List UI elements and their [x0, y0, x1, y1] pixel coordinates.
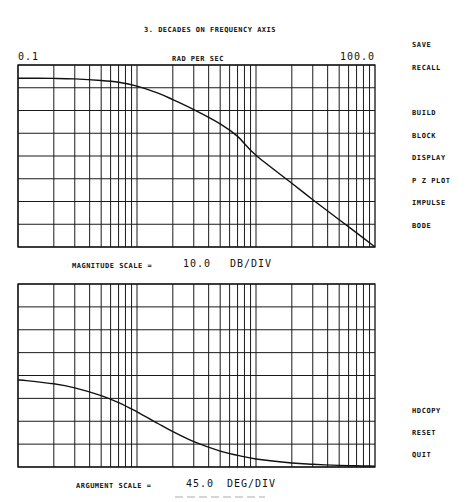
argument-scale-unit: DEG/DIV [227, 478, 276, 489]
magnitude-scale-value: 10.0 [183, 258, 211, 269]
menu-save[interactable]: SAVE [412, 41, 431, 49]
magnitude-curve [18, 78, 375, 247]
magnitude-scale-label: MAGNITUDE SCALE = [72, 262, 152, 270]
magnitude-scale-unit: DB/DIV [230, 258, 272, 269]
x-unit-label: RAD PER SEC [172, 55, 224, 63]
bode-plots [0, 0, 466, 502]
x-max-label: 100.0 [340, 51, 375, 62]
menu-impulse[interactable]: IMPULSE [412, 199, 446, 207]
menu-hdcopy[interactable]: HDCOPY [412, 407, 441, 415]
menu-build[interactable]: BUILD [412, 109, 436, 117]
chart-title: 3. DECADES ON FREQUENCY AXIS [144, 26, 276, 34]
menu-display[interactable]: DISPLAY [412, 154, 446, 162]
menu-pz-plot[interactable]: P Z PLOT [412, 177, 451, 185]
argument-scale-label: ARGUMENT SCALE = [76, 482, 151, 490]
menu-recall[interactable]: RECALL [412, 64, 441, 72]
menu-bode[interactable]: BODE [412, 222, 431, 230]
menu-block[interactable]: BLOCK [412, 132, 436, 140]
x-min-label: 0.1 [18, 51, 39, 62]
figure-caption-placeholder [175, 496, 265, 498]
argument-curve [18, 380, 375, 467]
menu-quit[interactable]: QUIT [412, 451, 431, 459]
argument-scale-value: 45.0 [186, 478, 214, 489]
menu-reset[interactable]: RESET [412, 429, 436, 437]
